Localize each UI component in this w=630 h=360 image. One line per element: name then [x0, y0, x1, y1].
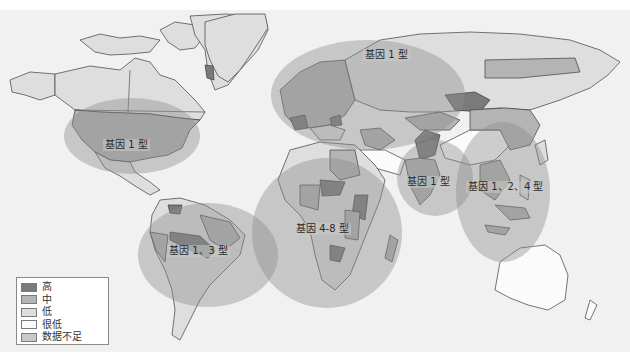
legend-item-medium: 中 [21, 294, 108, 307]
zone-north-america [64, 98, 200, 174]
legend-item-low: 低 [21, 306, 108, 319]
zone-label-north-america: 基因 1 型 [103, 139, 150, 151]
zone-label-europe-russia: 基因 1 型 [363, 49, 410, 61]
zone-label-east-asia: 基因 1、2、4 型 [466, 181, 545, 193]
greenland-high-region [205, 65, 214, 80]
zone-label-south-asia: 基因 1 型 [405, 176, 452, 188]
legend-label-no-data: 数据不足 [42, 331, 82, 343]
legend-label-high: 高 [42, 281, 52, 293]
legend-label-very-low: 很低 [42, 319, 62, 331]
legend-item-high: 高 [21, 281, 108, 294]
legend-label-low: 低 [42, 306, 52, 318]
legend-swatch-medium [21, 295, 37, 304]
legend-item-very-low: 很低 [21, 319, 108, 332]
legend-swatch-very-low [21, 320, 37, 329]
legend-swatch-high [21, 283, 37, 292]
new-zealand-land [585, 300, 597, 320]
map-legend: 高 中 低 很低 数据不足 [16, 277, 109, 345]
legend-item-no-data: 数据不足 [21, 331, 108, 344]
legend-label-medium: 中 [42, 294, 52, 306]
zone-label-africa: 基因 4-8 型 [294, 223, 351, 235]
zone-label-south-america: 基因 1、3 型 [167, 245, 230, 257]
legend-swatch-low [21, 308, 37, 317]
legend-swatch-no-data [21, 333, 37, 342]
